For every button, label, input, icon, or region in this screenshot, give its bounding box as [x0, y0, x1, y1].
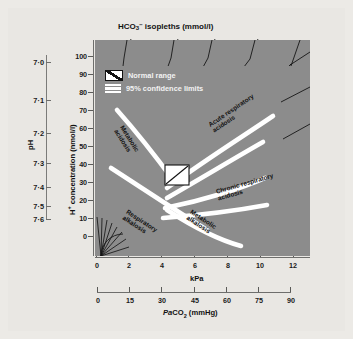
h-tickmark: [88, 200, 93, 201]
paco2-axis-title-italic: Pa: [163, 308, 172, 317]
paco2-axis-line: [97, 292, 291, 293]
h-tick-label-90: 90: [69, 70, 87, 79]
paco2-tick-label-0: 0: [90, 296, 106, 305]
legend-label-normal-range: Normal range: [128, 71, 176, 80]
h-tick-label-0: 0: [69, 232, 87, 241]
plot-area: Normal range 95% confidence limits Metab…: [95, 40, 310, 256]
h-axis-title-superscript: +: [66, 206, 72, 209]
kpa-tick-label-6: 6: [187, 261, 203, 270]
ph-tickmark: [46, 219, 51, 220]
h-tickmark: [88, 128, 93, 129]
legend-item-confidence-limits: 95% confidence limits: [105, 83, 203, 94]
paco2-tickmark: [161, 287, 162, 292]
h-tick-label-80: 80: [69, 88, 87, 97]
ph-tickmark: [46, 187, 51, 188]
legend-item-normal-range: Normal range: [105, 70, 203, 81]
h-axis-title-suffix: concentration (nmol/l): [68, 124, 77, 206]
isopleth-stub-25: [290, 52, 310, 65]
paco2-tickmark: [97, 287, 98, 292]
confidence-limits-swatch-icon: [105, 84, 121, 93]
kpa-tick-label-0: 0: [89, 261, 105, 270]
isopleth-upper-15: [208, 40, 212, 58]
paco2-tick-label-75: 75: [251, 296, 267, 305]
h-axis-title-prefix: H: [68, 210, 77, 215]
kpa-tick-label-12: 12: [285, 261, 301, 270]
paco2-tickmark: [129, 287, 130, 292]
isopleth-upper-5: [124, 40, 127, 58]
legend: Normal range 95% confidence limits: [105, 70, 203, 96]
kpa-tick-label-2: 2: [121, 261, 137, 270]
legend-label-confidence-limits: 95% confidence limits: [126, 84, 203, 93]
chart-title: HCO3− isopleths (mmol/l): [118, 22, 213, 31]
ph-tick-label-74: 7·4: [33, 183, 44, 192]
paco2-tick-label-45: 45: [187, 296, 203, 305]
paco2-axis-title-prefix: CO: [172, 308, 183, 317]
h-tickmark: [88, 74, 93, 75]
ph-tick-label-75: 7·5: [33, 202, 44, 211]
isopleth-upper-20: [250, 40, 255, 59]
normal-range-swatch-icon: [105, 70, 123, 81]
paco2-tickmark: [258, 287, 259, 292]
paco2-tick-label-30: 30: [154, 296, 170, 305]
kpa-axis-line: [95, 257, 310, 258]
ph-tickmark: [46, 62, 51, 63]
isopleth-upper-10: [171, 40, 174, 58]
ph-axis-line: [46, 55, 47, 220]
h-tick-label-100: 100: [69, 52, 87, 61]
h-tickmark: [88, 182, 93, 183]
kpa-tick-label-4: 4: [154, 261, 170, 270]
ph-tickmark: [46, 133, 51, 134]
h-tick-label-70: 70: [69, 106, 87, 115]
paco2-tick-label-15: 15: [122, 296, 138, 305]
ph-tick-label-70: 7·0: [33, 58, 44, 67]
isopleth-upper-25: [291, 40, 300, 66]
normal-range-box: [165, 165, 189, 185]
paco2-tickmark: [226, 287, 227, 292]
ph-tickmark: [46, 100, 51, 101]
paco2-tick-label-60: 60: [219, 296, 235, 305]
ph-tickmark: [46, 206, 51, 207]
paco2-axis-title: PaCO2 (mmHg): [163, 308, 218, 319]
ph-tick-label-76: 7·6: [33, 215, 44, 224]
h-tickmark: [88, 56, 93, 57]
ph-tick-label-73: 7·3: [33, 159, 44, 168]
h-axis-title: H+ concentration (nmol/l): [66, 124, 77, 215]
h-tickmark: [88, 164, 93, 165]
h-tickmark: [88, 146, 93, 147]
figure-container: HCO3− isopleths (mmol/l) 7·0 7·1 7·2 7·3…: [0, 0, 353, 339]
ph-tick-label-71: 7·1: [33, 96, 44, 105]
h-tickmark: [88, 236, 93, 237]
ph-tick-label-72: 7·2: [33, 129, 44, 138]
paco2-tickmark: [194, 287, 195, 292]
paco2-axis-title-suffix: (mmHg): [187, 308, 218, 317]
ph-axis-title: pH: [26, 140, 35, 150]
kpa-tick-label-8: 8: [220, 261, 236, 270]
paco2-tick-label-90: 90: [283, 296, 299, 305]
kpa-tick-label-10: 10: [252, 261, 268, 270]
paco2-tickmark: [290, 287, 291, 292]
chart-title-suffix: isopleths (mmol/l): [143, 22, 214, 31]
h-tickmark: [88, 92, 93, 93]
h-tickmark: [88, 110, 93, 111]
h-tick-label-10: 10: [69, 214, 87, 223]
kpa-axis-title: kPa: [190, 274, 204, 283]
h-tickmark: [88, 218, 93, 219]
chart-title-prefix: HCO: [118, 22, 136, 31]
ph-tickmark: [46, 163, 51, 164]
